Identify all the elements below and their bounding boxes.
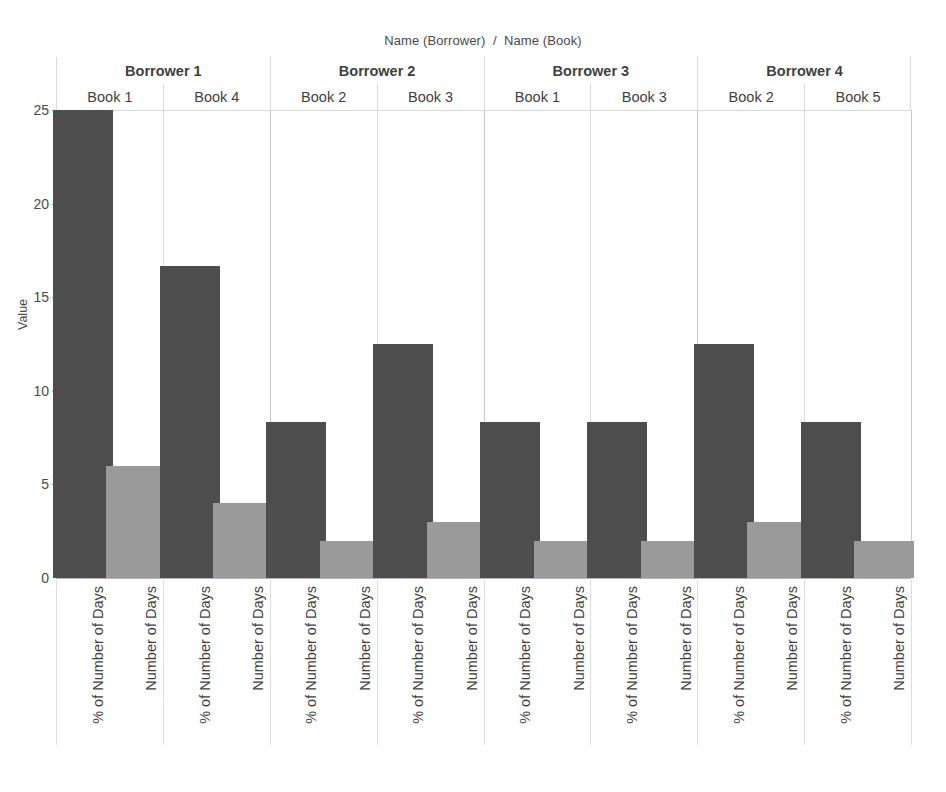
bar[interactable] <box>587 422 647 578</box>
x-label-divider <box>484 580 485 745</box>
bar[interactable] <box>694 344 754 578</box>
x-axis-tick-label: Number of Days <box>357 586 373 691</box>
y-axis-tick-label: 10 <box>33 383 49 399</box>
bar[interactable] <box>320 541 380 578</box>
x-axis-tick-label: % of Number of Days <box>197 586 213 724</box>
book-header-cell: Book 5 <box>804 84 911 110</box>
bar[interactable] <box>480 422 540 578</box>
bar[interactable] <box>854 541 914 578</box>
x-axis-tick-label: Number of Days <box>678 586 694 691</box>
borrower-header-row: Borrower 1Borrower 2Borrower 3Borrower 4 <box>56 57 911 84</box>
x-axis-tick-label: Number of Days <box>571 586 587 691</box>
x-axis-tick-label: % of Number of Days <box>303 586 319 724</box>
bar[interactable] <box>106 466 166 578</box>
book-header-cell: Book 1 <box>56 84 163 110</box>
y-axis-tick-label: 25 <box>33 102 49 118</box>
book-header-cell: Book 3 <box>590 84 697 110</box>
x-axis-tick-label: % of Number of Days <box>410 586 426 724</box>
panel-header-area: Borrower 1Borrower 2Borrower 3Borrower 4… <box>56 57 911 110</box>
x-axis-tick-label: % of Number of Days <box>517 586 533 724</box>
bar-chart: Name (Borrower) / Name (Book) Borrower 1… <box>0 0 946 792</box>
bar[interactable] <box>53 110 113 578</box>
borrower-header-cell: Borrower 1 <box>56 57 270 84</box>
x-label-divider <box>56 580 57 745</box>
x-axis-tick-label: Number of Days <box>891 586 907 691</box>
bar[interactable] <box>373 344 433 578</box>
book-header-cell: Book 2 <box>270 84 377 110</box>
x-axis-tick-label: % of Number of Days <box>90 586 106 724</box>
x-axis-tick-label: Number of Days <box>784 586 800 691</box>
header-right-border <box>910 57 911 110</box>
x-axis-line <box>56 578 911 579</box>
bar[interactable] <box>266 422 326 578</box>
bar[interactable] <box>427 522 487 578</box>
borrower-header-cell: Borrower 2 <box>270 57 484 84</box>
x-axis-tick-label: Number of Days <box>464 586 480 691</box>
x-label-divider <box>911 580 912 745</box>
book-header-cell: Book 1 <box>484 84 591 110</box>
x-axis-tick-label: % of Number of Days <box>731 586 747 724</box>
bar[interactable] <box>534 541 594 578</box>
y-axis-tick-label: 15 <box>33 289 49 305</box>
x-axis-tick-label: Number of Days <box>250 586 266 691</box>
x-axis-tick-label: % of Number of Days <box>838 586 854 724</box>
plot-area: 0510152025 <box>56 110 911 578</box>
x-label-divider <box>270 580 271 745</box>
x-axis-tick-label-area: % of Number of DaysNumber of Days% of Nu… <box>56 580 911 780</box>
x-axis-tick-label: % of Number of Days <box>624 586 640 724</box>
book-header-cell: Book 3 <box>377 84 484 110</box>
book-header-row: Book 1Book 4Book 2Book 3Book 1Book 3Book… <box>56 84 911 110</box>
bar[interactable] <box>213 503 273 578</box>
y-axis-title: Value <box>16 299 30 330</box>
x-axis-tick-label: Number of Days <box>143 586 159 691</box>
bar[interactable] <box>641 541 701 578</box>
x-label-divider <box>590 580 591 745</box>
bar[interactable] <box>160 266 220 578</box>
x-label-divider <box>697 580 698 745</box>
bar[interactable] <box>801 422 861 578</box>
x-label-divider <box>163 580 164 745</box>
chart-title: Name (Borrower) / Name (Book) <box>55 33 911 48</box>
borrower-header-cell: Borrower 3 <box>484 57 698 84</box>
y-axis-tick-label: 5 <box>41 476 49 492</box>
panel-divider <box>911 110 912 578</box>
book-header-cell: Book 2 <box>697 84 804 110</box>
borrower-header-cell: Borrower 4 <box>697 57 911 84</box>
book-header-cell: Book 4 <box>163 84 270 110</box>
x-label-divider <box>804 580 805 745</box>
y-axis-tick-label: 0 <box>41 570 49 586</box>
x-label-divider <box>377 580 378 745</box>
y-axis-tick-label: 20 <box>33 196 49 212</box>
bar[interactable] <box>747 522 807 578</box>
